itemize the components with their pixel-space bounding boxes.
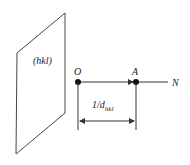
diagram-canvas: (hkl) O A N 1/dhkl (0, 0, 190, 165)
point-a-label: A (131, 66, 139, 77)
normal-label: N (171, 77, 180, 88)
distance-label-main: 1/d (92, 99, 106, 110)
distance-label-subscript: hkl (105, 105, 114, 113)
origin-label: O (74, 66, 81, 77)
reciprocal-lattice-diagram: (hkl) O A N 1/dhkl (0, 0, 190, 165)
distance-label: 1/dhkl (92, 99, 113, 113)
plane-label: (hkl) (33, 55, 53, 67)
hkl-plane (16, 13, 65, 154)
